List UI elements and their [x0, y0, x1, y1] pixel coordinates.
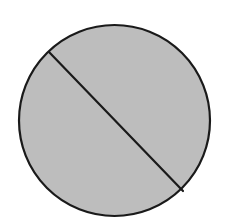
circle-chord-diagram: [0, 0, 225, 220]
